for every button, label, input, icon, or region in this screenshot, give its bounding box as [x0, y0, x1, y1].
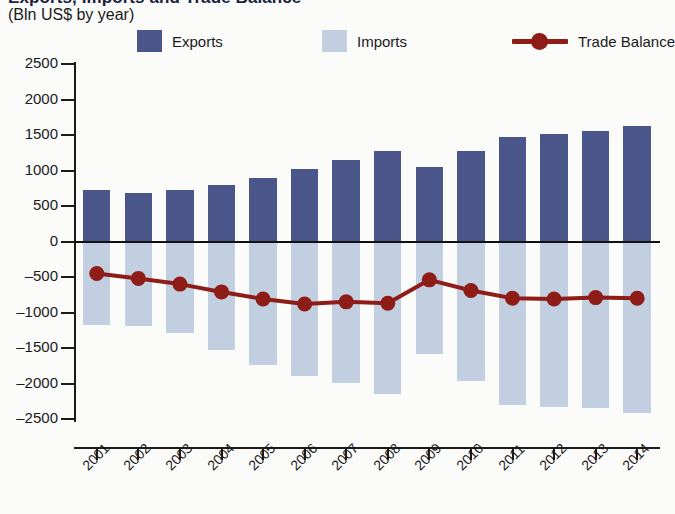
bar-imports-2014: [623, 242, 650, 414]
bar-imports-2001: [83, 242, 110, 325]
x-tick-label-2010: 2010: [453, 440, 486, 473]
y-tick-label-2500: 2500: [2, 54, 58, 71]
y-tick-label--2000: –2000: [2, 374, 58, 391]
bar-imports-2008: [374, 242, 401, 395]
bar-exports-2003: [166, 190, 193, 241]
bar-exports-2010: [457, 151, 484, 241]
x-tick-label-2011: 2011: [495, 441, 528, 474]
x-tick-label-2004: 2004: [204, 440, 237, 473]
bar-exports-2008: [374, 151, 401, 242]
bar-imports-2013: [582, 242, 609, 408]
x-tick-label-2008: 2008: [370, 440, 403, 473]
y-tick--2000: [61, 383, 75, 385]
y-tick-1500: [61, 134, 75, 136]
y-tick-2500: [61, 63, 75, 65]
bar-imports-2002: [125, 242, 152, 326]
x-tick-label-2003: 2003: [162, 440, 195, 473]
x-tick-label-2014: 2014: [619, 440, 652, 473]
y-tick-label-0: 0: [2, 232, 58, 249]
y-tick-label-1500: 1500: [2, 125, 58, 142]
bar-imports-2009: [416, 242, 443, 355]
y-tick--1500: [61, 347, 75, 349]
bar-imports-2004: [208, 242, 235, 351]
bar-imports-2006: [291, 242, 318, 377]
zero-baseline: [74, 241, 660, 243]
y-tick-500: [61, 205, 75, 207]
y-tick-2000: [61, 99, 75, 101]
y-tick-label-1000: 1000: [2, 161, 58, 178]
y-axis-labels: 25002000150010005000–500–1000–1500–2000–…: [0, 0, 58, 514]
bar-imports-2003: [166, 242, 193, 334]
y-tick-label-2000: 2000: [2, 90, 58, 107]
y-tick-label-500: 500: [2, 196, 58, 213]
y-tick-label--500: –500: [2, 267, 58, 284]
y-tick--2500: [61, 418, 75, 420]
bar-exports-2013: [582, 131, 609, 242]
bar-exports-2002: [125, 193, 152, 242]
bar-imports-2012: [540, 242, 567, 407]
bar-exports-2001: [83, 190, 110, 242]
y-tick-label--2500: –2500: [2, 409, 58, 426]
x-tick-label-2013: 2013: [578, 440, 611, 473]
bar-exports-2005: [249, 178, 276, 242]
y-tick-label--1000: –1000: [2, 303, 58, 320]
bar-exports-2011: [499, 137, 526, 241]
bar-imports-2010: [457, 242, 484, 381]
bar-exports-2014: [623, 126, 650, 241]
bar-imports-2007: [332, 242, 359, 383]
bar-exports-2004: [208, 185, 235, 242]
x-tick-label-2007: 2007: [328, 440, 361, 473]
x-tick-label-2002: 2002: [120, 440, 153, 473]
y-tick--500: [61, 276, 75, 278]
bar-exports-2007: [332, 160, 359, 242]
x-tick-label-2006: 2006: [287, 440, 320, 473]
bar-exports-2009: [416, 167, 443, 242]
x-axis: [74, 447, 660, 449]
y-tick--1000: [61, 312, 75, 314]
y-tick-0: [61, 241, 75, 243]
bar-exports-2012: [540, 134, 567, 242]
x-tick-label-2009: 2009: [411, 440, 444, 473]
x-tick-label-2005: 2005: [245, 440, 278, 473]
bar-imports-2005: [249, 242, 276, 366]
bar-exports-2006: [291, 169, 318, 241]
y-tick-1000: [61, 170, 75, 172]
y-tick-label--1500: –1500: [2, 338, 58, 355]
x-tick-label-2001: 2001: [79, 440, 112, 473]
x-tick-label-2012: 2012: [536, 440, 569, 473]
bar-imports-2011: [499, 242, 526, 405]
